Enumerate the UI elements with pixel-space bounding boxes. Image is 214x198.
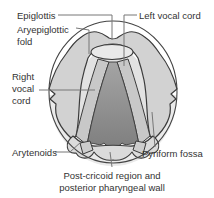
label-epiglottis: Epiglottis	[17, 10, 56, 22]
laryngeal-inlet-ellipse	[91, 45, 133, 60]
label-pyriform-fossa: Pyriform fossa	[142, 148, 203, 160]
label-arytenoids: Arytenoids	[12, 147, 57, 159]
label-post-cricoid-region: Post-cricoid region and posterior pharyn…	[53, 170, 171, 194]
label-aryepiglottic-fold: Aryepiglottic fold	[17, 24, 83, 48]
larynx-diagram: Epiglottis Aryepiglottic fold Left vocal…	[0, 0, 214, 198]
label-right-vocal-cord: Right vocal cord	[12, 71, 48, 107]
label-left-vocal-cord: Left vocal cord	[139, 10, 201, 22]
